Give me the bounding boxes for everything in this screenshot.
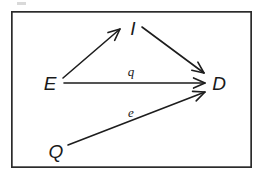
- edge-E-to-D: q: [64, 64, 205, 88]
- node-label-Q: Q: [49, 141, 64, 162]
- diagram-svg: q e E I D Q: [0, 0, 264, 180]
- edge-E-to-I: [63, 29, 120, 78]
- diagram-canvas: q e E I D Q: [0, 0, 264, 180]
- scan-artifact-speck: [17, 2, 26, 5]
- node-label-D: D: [212, 73, 226, 94]
- edge-Q-to-D: e: [68, 91, 205, 145]
- edge-label-q: q: [128, 64, 135, 79]
- node-label-E: E: [44, 73, 57, 94]
- edge-I-to-D: [142, 27, 204, 73]
- node-label-I: I: [130, 18, 136, 39]
- edge-label-e: e: [128, 105, 134, 120]
